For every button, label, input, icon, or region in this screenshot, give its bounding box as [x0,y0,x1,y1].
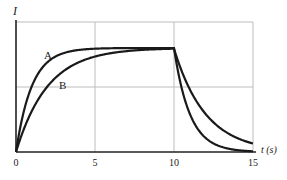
curve-b [16,49,253,152]
x-tick-5: 5 [93,157,98,168]
curve-a [16,48,253,152]
x-tick-0: 0 [14,157,19,168]
curve-a-label: A [44,49,52,61]
chart: I A B 0 5 10 15 t (s) [0,0,287,180]
curve-b-label: B [59,79,66,91]
x-tick-10: 10 [169,157,179,168]
y-axis-label: I [12,4,18,18]
axes [16,20,256,152]
grid [16,22,253,152]
x-tick-15: 15 [248,157,258,168]
x-axis-label: t (s) [261,144,278,156]
